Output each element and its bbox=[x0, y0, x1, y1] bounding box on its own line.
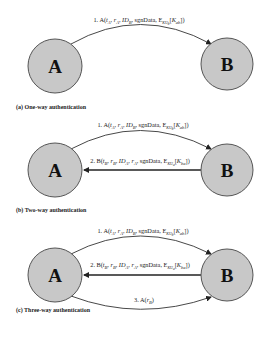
message-1-arrow bbox=[71, 131, 211, 150]
node-b: B bbox=[201, 38, 253, 90]
node-b: B bbox=[201, 249, 253, 301]
svg-text:B: B bbox=[221, 265, 234, 286]
message-2-label: 2. B(tB, rB, IDA, rA, sgnData, EKUa[Kba]… bbox=[90, 261, 189, 271]
authentication-diagram: 1. A(tA, rA, IDB, sgnData, EKUb[Kab]) A … bbox=[0, 0, 267, 338]
svg-text:A: A bbox=[48, 265, 62, 286]
message-1-arrow bbox=[71, 25, 211, 45]
svg-text:B: B bbox=[221, 160, 234, 181]
caption-two-way: (b) Two-way authentication bbox=[16, 207, 87, 214]
message-2-label: 2. B(tB, rB, IDA, rA, sgnData, EKUa[Kba]… bbox=[90, 157, 189, 167]
message-1-label: 1. A(tA, rA, IDB, sgnData, EKUb[Kab]) bbox=[97, 227, 188, 237]
message-1-arrow bbox=[71, 236, 211, 254]
node-a: A bbox=[28, 143, 82, 197]
panel-one-way: 1. A(tA, rA, IDB, sgnData, EKUb[Kab]) A … bbox=[16, 16, 253, 111]
panel-two-way: 1. A(tA, rA, IDB, sgnData, EKUb[Kab]) 2.… bbox=[16, 121, 253, 214]
svg-text:A: A bbox=[48, 56, 62, 77]
message-1-label: 1. A(tA, rA, IDB, sgnData, EKUb[Kab]) bbox=[97, 121, 188, 131]
node-a: A bbox=[28, 39, 82, 93]
node-b: B bbox=[201, 144, 253, 196]
panel-three-way: 1. A(tA, rA, IDB, sgnData, EKUb[Kab]) 2.… bbox=[16, 227, 253, 314]
svg-text:B: B bbox=[221, 54, 234, 75]
caption-one-way: (a) One-way authentication bbox=[16, 104, 87, 111]
message-3-label: 3. A(rB) bbox=[134, 296, 154, 305]
node-a: A bbox=[28, 248, 82, 302]
svg-text:A: A bbox=[48, 160, 62, 181]
caption-three-way: (c) Three-way authentication bbox=[16, 307, 91, 314]
